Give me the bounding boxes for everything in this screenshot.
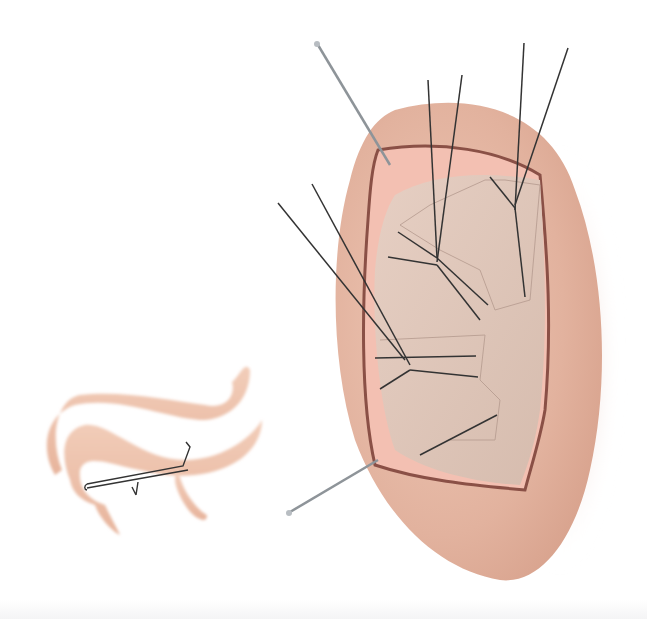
pin-top: [318, 45, 390, 165]
auricle: [336, 103, 620, 581]
bottom-margin: [0, 600, 647, 619]
pin-bottom: [290, 460, 378, 512]
medical-illustration: Surgical illustration: ear cartilage gra…: [0, 0, 647, 619]
cartilage-graft: [374, 175, 545, 485]
cartilage-strip: [47, 367, 262, 535]
